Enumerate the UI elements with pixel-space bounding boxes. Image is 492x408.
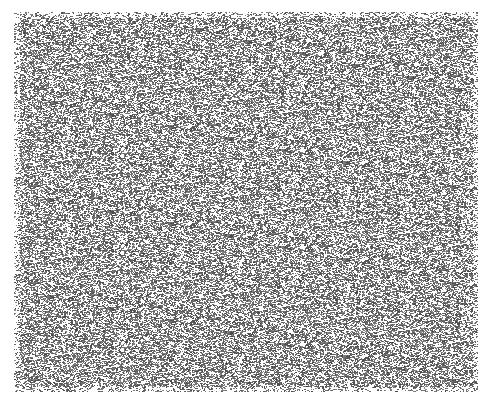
noise-texture: [14, 12, 478, 392]
